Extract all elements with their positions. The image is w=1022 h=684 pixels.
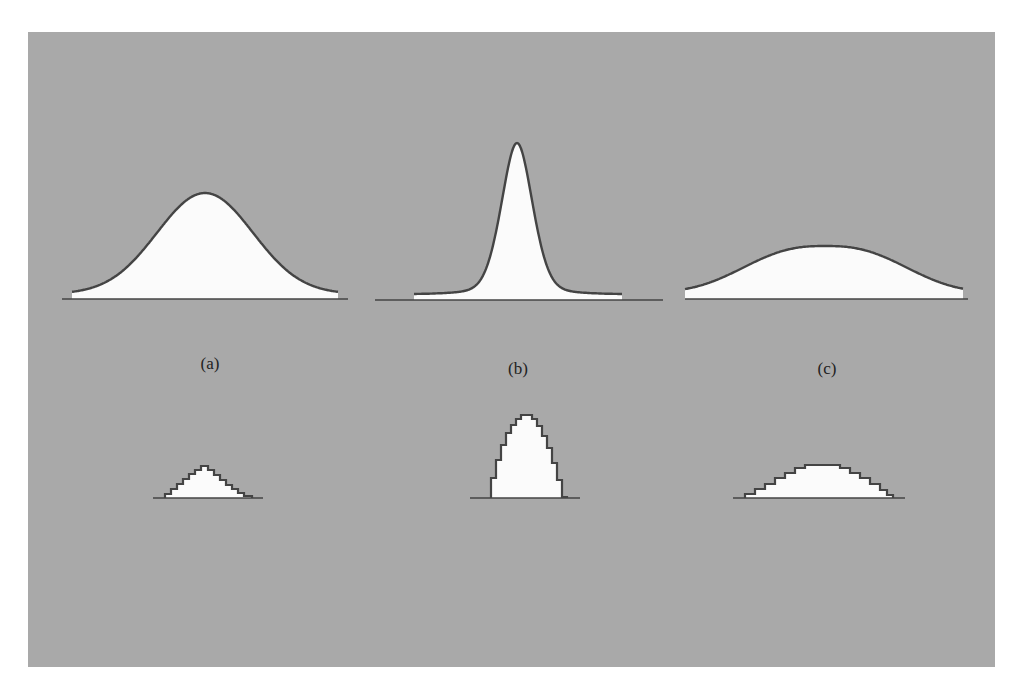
label-a: (a) xyxy=(201,354,220,374)
histogram-fill-b xyxy=(491,415,567,498)
distribution-figure xyxy=(0,0,1022,684)
curve-fill-c xyxy=(685,246,963,299)
curve-fill-b xyxy=(414,143,622,300)
label-b: (b) xyxy=(508,359,528,379)
label-c: (c) xyxy=(818,359,837,379)
curve-fill-a xyxy=(72,193,338,299)
